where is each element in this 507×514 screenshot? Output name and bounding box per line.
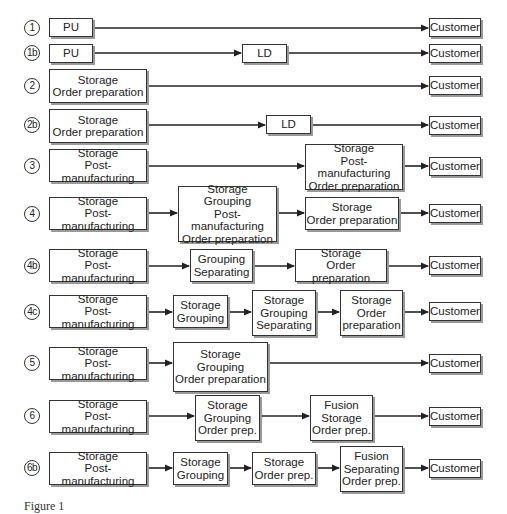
- figure-caption: Figure 1: [24, 499, 64, 514]
